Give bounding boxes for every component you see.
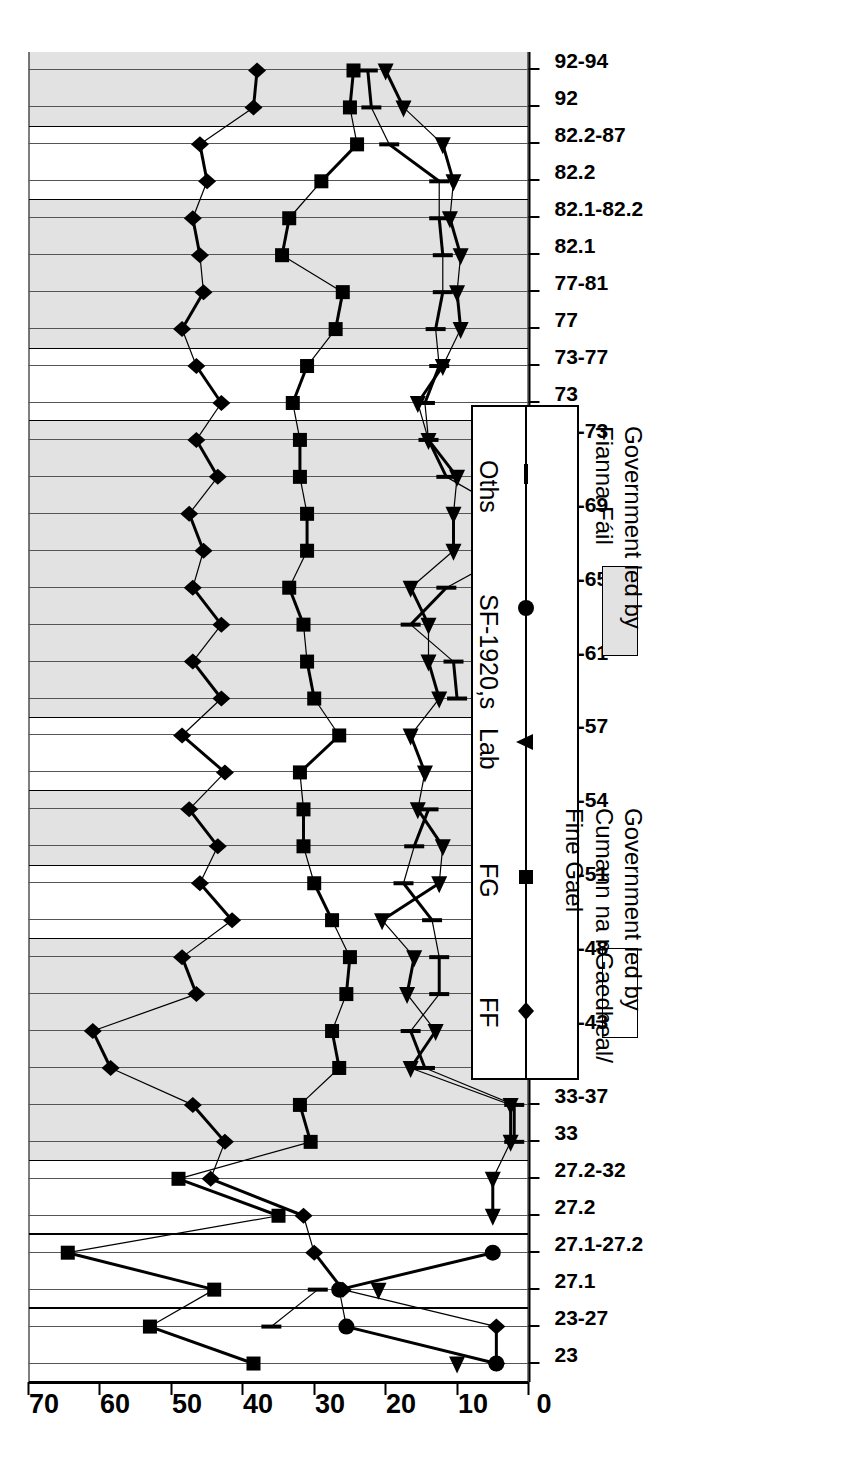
data-point-tick [429,992,449,996]
series-segment [189,477,218,514]
data-point-diamond [83,1023,101,1039]
data-point-tick [422,918,442,922]
data-point-triangle [452,248,468,265]
value-tick-label: 40 [243,1389,273,1420]
data-point-diamond [187,432,205,448]
data-point-diamond [198,173,216,189]
category-label: 92 [554,86,577,110]
data-point-triangle [516,734,533,750]
series-segment [192,1105,224,1142]
data-point-tick [418,438,438,442]
data-point-square [519,870,533,884]
data-point-square [285,396,299,410]
data-point-diamond [518,1002,534,1020]
series-segment [196,366,221,403]
legend-marker-square [506,857,546,897]
data-point-tick [400,1029,420,1033]
data-point-diamond [248,62,266,78]
legend-label: FF [474,997,503,1028]
data-point-tick [361,105,381,109]
category-label: 33 [554,1121,577,1145]
data-point-diamond [183,210,201,226]
value-tick-label: 70 [28,1389,58,1420]
series-segment [432,920,439,957]
series-segment [367,70,371,107]
category-label: 82.2-87 [554,123,625,147]
data-point-square [142,1320,156,1334]
data-point-square [300,544,314,558]
series-segment [210,1179,303,1216]
data-point-tick [447,697,467,701]
legend-item[interactable]: SF-1920,s [473,541,577,675]
data-point-circle [484,1245,500,1261]
series-segment [182,735,225,772]
data-point-square [300,359,314,373]
series-segment [189,809,218,846]
legend-marker-diamond [506,991,546,1031]
data-point-tick [443,660,463,664]
data-point-square [296,802,310,816]
data-point-square [350,137,364,151]
series-segment [346,1327,496,1364]
data-point-square [282,581,296,595]
data-point-circle [488,1356,504,1372]
category-label: 23 [554,1343,577,1367]
value-tick-label: 30 [314,1389,344,1420]
data-point-tick [400,623,420,627]
value-tick-label: 60 [100,1389,130,1420]
data-point-tick [357,68,377,72]
data-point-diamond [194,543,212,559]
series-segment [389,144,439,181]
data-point-tick [432,290,452,294]
category-label: 77-81 [554,271,608,295]
data-point-square [296,839,310,853]
data-point-square [332,1061,346,1075]
value-tick-label: 20 [386,1389,416,1420]
data-point-square [292,470,306,484]
category-label: 27.2 [554,1195,595,1219]
data-point-square [292,433,306,447]
data-point-circle [338,1319,354,1335]
data-point-triangle [434,137,450,154]
data-point-square [342,100,356,114]
legend-item[interactable]: Oths [473,407,577,541]
data-point-diamond [190,247,208,263]
series-segment [339,1253,493,1290]
data-point-diamond [212,395,230,411]
data-point-square [342,950,356,964]
data-point-tick [404,844,424,848]
data-point-tick [418,807,438,811]
data-point-tick [414,401,434,405]
series-segment [439,218,443,255]
data-point-square [328,322,342,336]
data-point-tick [429,955,449,959]
data-point-triangle [406,950,422,967]
data-point-diamond [194,284,212,300]
series-segment [403,883,432,920]
series-segment [342,1290,496,1327]
series-ff [83,62,505,1371]
data-point-square [282,211,296,225]
legend-marker-circle [506,588,546,628]
data-point-triangle [374,913,390,930]
category-label: 23-27 [554,1306,608,1330]
value-tick-label: 50 [171,1389,201,1420]
data-point-diamond [487,1319,505,1335]
data-point-tick [504,1103,524,1107]
data-point-diamond [212,617,230,633]
data-point-diamond [208,469,226,485]
series-segment [382,883,439,920]
series-segment [149,1327,253,1364]
category-label: 27.1 [554,1269,595,1293]
category-label: 82.1-82.2 [554,197,643,221]
series-segment [192,662,221,699]
data-point-triangle [434,839,450,856]
data-point-diamond [190,136,208,152]
series-segment [282,255,343,292]
data-point-tick [379,142,399,146]
series-segment [149,1290,213,1327]
data-point-diamond [201,1171,219,1187]
data-point-triangle [420,655,436,672]
value-tick-label: 0 [536,1389,551,1420]
data-point-triangle [484,1209,500,1226]
